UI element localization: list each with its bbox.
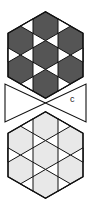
top-hexagon — [8, 12, 83, 99]
figure-canvas — [0, 0, 92, 211]
bottom-hexagon — [8, 112, 83, 199]
bowtie-label: c — [70, 95, 75, 104]
